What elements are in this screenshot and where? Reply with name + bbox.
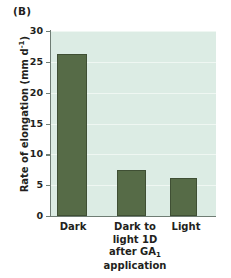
- y-tick-mark: [46, 185, 50, 186]
- y-tick-label: 0: [22, 211, 43, 221]
- y-tick-mark: [46, 216, 50, 217]
- y-axis-line: [50, 30, 51, 217]
- y-tick-mark: [46, 62, 50, 63]
- figure-panel-b: (B) 051015202530 Rate of elongation (mm …: [0, 0, 231, 278]
- x-axis-line: [50, 216, 216, 217]
- panel-label: (B): [13, 5, 31, 17]
- gridline: [50, 31, 216, 32]
- bar: [117, 170, 146, 216]
- bar: [170, 178, 197, 216]
- y-tick-mark: [46, 93, 50, 94]
- y-axis-title: Rate of elongation (mm d-1): [18, 34, 30, 194]
- y-tick-mark: [46, 154, 50, 155]
- y-tick-mark: [46, 31, 50, 32]
- bar: [57, 54, 87, 216]
- y-tick-mark: [46, 124, 50, 125]
- plot-area: [50, 31, 216, 216]
- x-axis-label: Light: [150, 221, 222, 234]
